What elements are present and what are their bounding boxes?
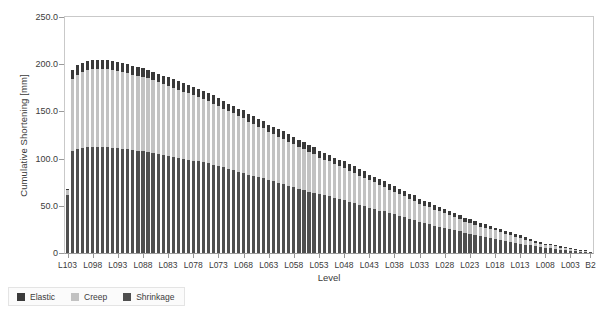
- stacked-bar[interactable]: [504, 231, 507, 253]
- stacked-bar[interactable]: [172, 79, 175, 253]
- stacked-bar[interactable]: [589, 252, 592, 253]
- stacked-bar[interactable]: [418, 199, 421, 253]
- stacked-bar[interactable]: [519, 235, 522, 253]
- stacked-bar[interactable]: [302, 142, 305, 253]
- stacked-bar[interactable]: [509, 232, 512, 253]
- stacked-bar[interactable]: [136, 67, 139, 253]
- stacked-bar[interactable]: [227, 104, 230, 253]
- stacked-bar[interactable]: [559, 246, 562, 253]
- stacked-bar[interactable]: [584, 250, 587, 253]
- stacked-bar[interactable]: [403, 191, 406, 253]
- legend-item-elastic[interactable]: Elastic: [17, 292, 55, 302]
- stacked-bar[interactable]: [126, 64, 129, 253]
- stacked-bar[interactable]: [539, 242, 542, 253]
- stacked-bar[interactable]: [307, 145, 310, 253]
- stacked-bar[interactable]: [297, 140, 300, 253]
- stacked-bar[interactable]: [287, 134, 290, 253]
- stacked-bar[interactable]: [468, 219, 471, 253]
- bar-slot[interactable]: [588, 17, 593, 253]
- stacked-bar[interactable]: [257, 119, 260, 253]
- stacked-bar[interactable]: [262, 121, 265, 253]
- stacked-bar[interactable]: [66, 189, 69, 253]
- stacked-bar[interactable]: [116, 62, 119, 253]
- stacked-bar[interactable]: [212, 95, 215, 253]
- stacked-bar[interactable]: [86, 61, 89, 253]
- stacked-bar[interactable]: [272, 127, 275, 253]
- stacked-bar[interactable]: [489, 226, 492, 253]
- stacked-bar[interactable]: [237, 109, 240, 253]
- stacked-bar[interactable]: [157, 74, 160, 253]
- stacked-bar[interactable]: [333, 158, 336, 253]
- stacked-bar[interactable]: [378, 179, 381, 253]
- stacked-bar[interactable]: [343, 161, 346, 253]
- stacked-bar[interactable]: [348, 164, 351, 253]
- stacked-bar[interactable]: [91, 60, 94, 253]
- stacked-bar[interactable]: [363, 171, 366, 253]
- stacked-bar[interactable]: [564, 247, 567, 253]
- stacked-bar[interactable]: [413, 195, 416, 253]
- stacked-bar[interactable]: [544, 244, 547, 253]
- stacked-bar[interactable]: [177, 81, 180, 253]
- stacked-bar[interactable]: [473, 221, 476, 253]
- stacked-bar[interactable]: [76, 65, 79, 253]
- stacked-bar[interactable]: [383, 181, 386, 253]
- stacked-bar[interactable]: [484, 224, 487, 253]
- stacked-bar[interactable]: [398, 189, 401, 253]
- stacked-bar[interactable]: [494, 228, 497, 253]
- stacked-bar[interactable]: [101, 60, 104, 253]
- stacked-bar[interactable]: [207, 93, 210, 253]
- stacked-bar[interactable]: [358, 169, 361, 253]
- stacked-bar[interactable]: [479, 223, 482, 253]
- stacked-bar[interactable]: [368, 175, 371, 253]
- stacked-bar[interactable]: [443, 209, 446, 253]
- stacked-bar[interactable]: [388, 184, 391, 253]
- stacked-bar[interactable]: [438, 207, 441, 253]
- stacked-bar[interactable]: [408, 194, 411, 253]
- stacked-bar[interactable]: [453, 213, 456, 253]
- stacked-bar[interactable]: [292, 137, 295, 253]
- stacked-bar[interactable]: [217, 98, 220, 253]
- stacked-bar[interactable]: [111, 61, 114, 253]
- stacked-bar[interactable]: [282, 131, 285, 253]
- stacked-bar[interactable]: [252, 116, 255, 253]
- stacked-bar[interactable]: [338, 160, 341, 253]
- legend-item-creep[interactable]: Creep: [71, 292, 107, 302]
- stacked-bar[interactable]: [81, 63, 84, 253]
- stacked-bar[interactable]: [529, 239, 532, 253]
- stacked-bar[interactable]: [267, 125, 270, 253]
- stacked-bar[interactable]: [312, 147, 315, 253]
- stacked-bar[interactable]: [574, 249, 577, 253]
- stacked-bar[interactable]: [187, 85, 190, 253]
- stacked-bar[interactable]: [514, 234, 517, 253]
- stacked-bar[interactable]: [96, 60, 99, 253]
- stacked-bar[interactable]: [192, 87, 195, 253]
- stacked-bar[interactable]: [247, 114, 250, 253]
- stacked-bar[interactable]: [202, 91, 205, 253]
- stacked-bar[interactable]: [463, 218, 466, 253]
- stacked-bar[interactable]: [197, 89, 200, 253]
- stacked-bar[interactable]: [151, 72, 154, 253]
- stacked-bar[interactable]: [232, 106, 235, 253]
- stacked-bar[interactable]: [121, 63, 124, 253]
- stacked-bar[interactable]: [353, 166, 356, 253]
- stacked-bar[interactable]: [499, 229, 502, 253]
- stacked-bar[interactable]: [106, 60, 109, 253]
- stacked-bar[interactable]: [549, 244, 552, 253]
- stacked-bar[interactable]: [458, 215, 461, 253]
- stacked-bar[interactable]: [579, 250, 582, 253]
- stacked-bar[interactable]: [534, 241, 537, 253]
- stacked-bar[interactable]: [373, 177, 376, 253]
- stacked-bar[interactable]: [318, 151, 321, 253]
- stacked-bar[interactable]: [433, 205, 436, 253]
- stacked-bar[interactable]: [554, 245, 557, 253]
- stacked-bar[interactable]: [328, 155, 331, 253]
- stacked-bar[interactable]: [242, 110, 245, 253]
- stacked-bar[interactable]: [141, 68, 144, 253]
- stacked-bar[interactable]: [393, 186, 396, 253]
- stacked-bar[interactable]: [222, 101, 225, 253]
- stacked-bar[interactable]: [428, 202, 431, 253]
- stacked-bar[interactable]: [423, 201, 426, 253]
- stacked-bar[interactable]: [162, 76, 165, 253]
- stacked-bar[interactable]: [524, 237, 527, 253]
- stacked-bar[interactable]: [131, 66, 134, 253]
